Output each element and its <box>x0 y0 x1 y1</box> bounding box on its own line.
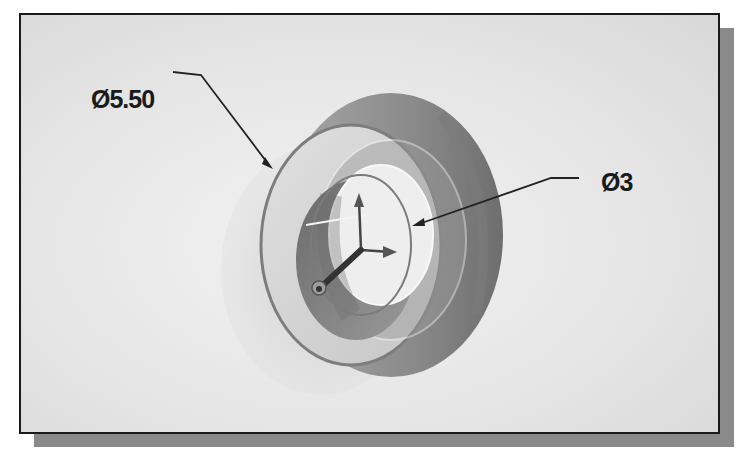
model-viewport <box>21 15 718 432</box>
cut-off-caption <box>0 0 744 6</box>
graphics-viewport-frame: Ø5.50 Ø3 <box>19 13 720 434</box>
dimension-outer-diameter: Ø5.50 <box>91 85 154 114</box>
leader-outer <box>173 72 273 169</box>
dimension-inner-diameter: Ø3 <box>601 168 632 197</box>
